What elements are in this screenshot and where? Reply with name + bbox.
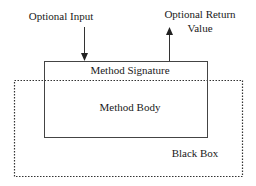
black-box-boundary <box>15 81 243 177</box>
input-arrowhead-icon <box>81 53 88 61</box>
optional-return-label-line2: Value <box>160 22 240 35</box>
black-box-diagram: Optional Input Optional Return Value Met… <box>0 0 256 186</box>
method-body-label: Method Body <box>85 101 175 114</box>
optional-return-label-line1: Optional Return <box>160 8 240 21</box>
method-signature-label: Method Signature <box>80 64 180 77</box>
optional-input-label: Optional Input <box>24 10 98 23</box>
black-box-label: Black Box <box>160 147 230 160</box>
